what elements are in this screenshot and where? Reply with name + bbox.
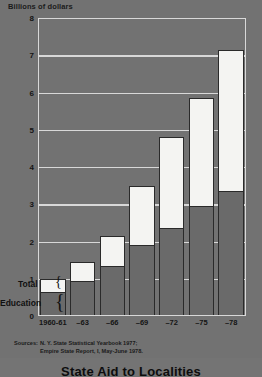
x-tick-label: –63	[76, 318, 89, 327]
y-tick-label: 3	[4, 200, 34, 209]
sources-line-1: N. Y. State Statistical Yearbook 1977;	[40, 340, 137, 346]
legend: Total { Education {	[0, 276, 70, 320]
chart-title: State Aid to Localities	[0, 364, 262, 377]
y-axis-ticks: 012345678	[0, 18, 34, 316]
x-tick-label: –78	[225, 318, 238, 327]
x-tick-label: –66	[106, 318, 119, 327]
plot-frame	[38, 18, 246, 316]
sources-note: Sources:N. Y. State Statistical Yearbook…	[14, 340, 244, 355]
brace-education-icon: {	[55, 291, 65, 311]
brace-total-icon: {	[55, 275, 62, 289]
legend-label-total: Total	[18, 279, 38, 289]
legend-label-education: Education	[0, 298, 41, 308]
x-tick-label: –69	[136, 318, 149, 327]
y-axis-caption: Billions of dollars	[8, 2, 73, 11]
plot-area	[38, 18, 246, 316]
x-tick-label: –72	[165, 318, 178, 327]
sources-line-2: Empire State Report, I, May-June 1978.	[40, 348, 244, 356]
y-tick-label: 7	[4, 51, 34, 60]
y-tick-label: 2	[4, 237, 34, 246]
y-tick-label: 6	[4, 88, 34, 97]
sources-label: Sources:	[14, 340, 40, 348]
x-tick-label: –75	[195, 318, 208, 327]
chart-figure: Billions of dollars 012345678 1960-61–63…	[0, 0, 262, 377]
y-tick-label: 8	[4, 14, 34, 23]
y-tick-label: 5	[4, 125, 34, 134]
y-tick-label: 4	[4, 163, 34, 172]
